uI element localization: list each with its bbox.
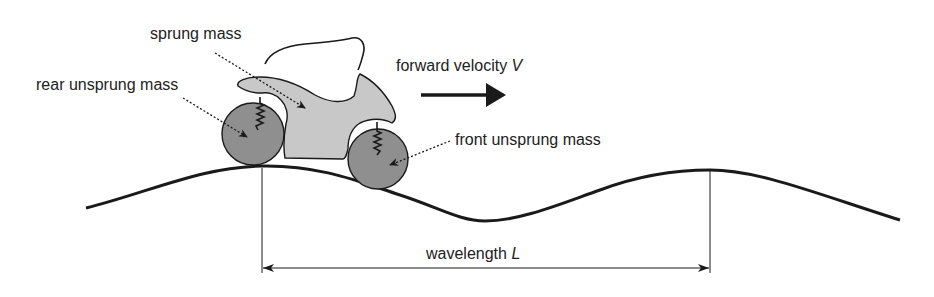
rider [265,38,364,70]
label-wavelength-symbol: L [511,245,520,262]
label-velocity-symbol: V [512,57,523,74]
label-forward-velocity-text: forward velocity [396,57,507,74]
rear-wheel [222,103,284,165]
label-forward-velocity: forward velocity V [396,58,522,74]
velocity-arrow-head [486,83,506,107]
label-wavelength: wavelength L [426,246,520,262]
label-wavelength-text: wavelength [426,245,507,262]
road-profile [86,166,900,221]
label-rear-unsprung-mass: rear unsprung mass [36,77,178,93]
label-sprung-mass: sprung mass [150,26,242,42]
label-front-unsprung-mass: front unsprung mass [455,132,601,148]
